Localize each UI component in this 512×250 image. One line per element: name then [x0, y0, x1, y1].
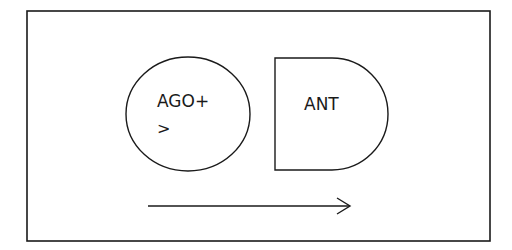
right-arrow-icon [148, 198, 350, 214]
diagram-canvas: AGO+ > ANT [0, 0, 512, 250]
antagonist-d-shape [275, 58, 388, 170]
antagonist-label: ANT [304, 94, 339, 114]
agonist-symbol: > [157, 119, 170, 138]
agonist-ellipse [126, 57, 250, 171]
agonist-label: AGO+ [157, 91, 209, 111]
